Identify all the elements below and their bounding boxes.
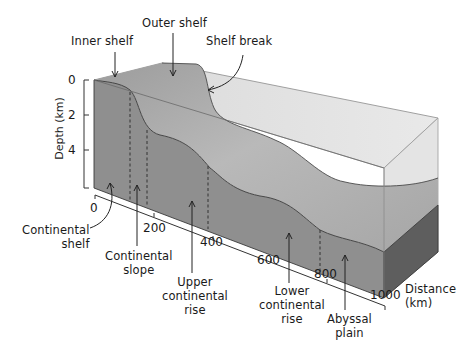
- label-upper-continental-rise: Upper continental rise: [162, 275, 228, 317]
- diagram-stage: Inner shelf Outer shelf Shelf break 0 2 …: [0, 0, 472, 351]
- depth-tick-0: 0: [68, 74, 76, 87]
- label-abyssal-plain: Abyssal plain: [327, 312, 372, 340]
- label-lower-continental-rise: Lower continental rise: [259, 284, 325, 326]
- depth-tick-2: 2: [68, 109, 76, 122]
- distance-tick-800: 800: [314, 268, 337, 281]
- distance-tick-600: 600: [257, 254, 280, 267]
- distance-tick-400: 400: [200, 236, 223, 249]
- depth-axis-label: Depth (km): [53, 97, 66, 160]
- label-shelf-break: Shelf break: [206, 34, 272, 48]
- label-continental-shelf: Continental shelf: [22, 223, 90, 251]
- distance-tick-1000: 1000: [370, 289, 401, 302]
- depth-tick-4: 4: [68, 144, 76, 157]
- label-continental-slope: Continental slope: [105, 249, 173, 277]
- depth-axis: [84, 80, 89, 188]
- label-inner-shelf: Inner shelf: [71, 34, 133, 48]
- distance-tick-0: 0: [90, 202, 98, 215]
- label-outer-shelf: Outer shelf: [142, 16, 207, 30]
- distance-axis-label: Distance (km): [405, 282, 456, 310]
- distance-tick-200: 200: [143, 222, 166, 235]
- continental-margin-block-diagram: [0, 0, 472, 351]
